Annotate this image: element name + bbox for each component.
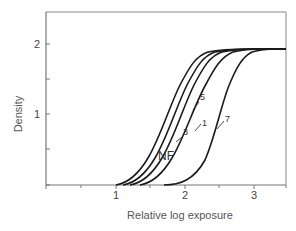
curve-nf bbox=[116, 49, 286, 185]
x-tick-label-1: 1 bbox=[113, 189, 119, 201]
curve-label-1: 1 bbox=[202, 118, 207, 128]
curve-1 bbox=[140, 49, 286, 185]
x-tick-label-2: 2 bbox=[182, 189, 188, 201]
x-tick-label-3: 3 bbox=[251, 189, 257, 201]
curve-5 bbox=[123, 49, 286, 185]
curve-label-7: 7 bbox=[225, 114, 230, 124]
y-tick-label-1: 1 bbox=[34, 108, 40, 120]
y-tick-label-2: 2 bbox=[34, 38, 40, 50]
chart: 2 1 1 2 3 Relative log exposure Density … bbox=[0, 0, 296, 231]
curve-3 bbox=[130, 49, 286, 185]
x-axis-title: Relative log exposure bbox=[127, 209, 233, 221]
curve-label-nf: NF bbox=[158, 149, 174, 163]
leader-1 bbox=[195, 124, 201, 131]
curve-label-5: 5 bbox=[200, 92, 205, 102]
y-axis-title: Density bbox=[12, 95, 24, 132]
curve-label-3: 3 bbox=[183, 127, 188, 137]
